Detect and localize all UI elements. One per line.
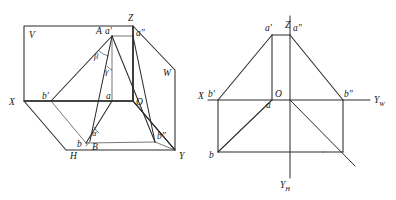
label-plane-V: V	[29, 30, 36, 40]
label-axis-Yh-right: YH	[280, 180, 290, 192]
label-point-a-right: a	[266, 100, 271, 110]
label-axis-Z-left: Z	[128, 13, 134, 23]
label-origin-O-left: O	[136, 97, 143, 107]
label-angle-alpha: α	[92, 128, 97, 138]
projection-figure: V W H X Z Y O A a′ a″ a B b′ b″ b β γ α	[0, 0, 396, 200]
label-axis-Y-left: Y	[179, 151, 186, 161]
line-adoubleprime-bdoubleprime-right	[290, 35, 343, 100]
line-aprime-bprime-right	[218, 35, 272, 100]
label-point-aprime-right: a′	[265, 23, 273, 33]
line-a-b-right	[218, 100, 272, 152]
label-axis-Z-right: Z	[285, 20, 291, 30]
label-point-bdoubleprime-right: b″	[344, 89, 354, 99]
label-point-bdoubleprime-left: b″	[157, 131, 167, 141]
label-point-b-right: b	[209, 150, 214, 160]
label-point-bprime-right: b′	[208, 89, 216, 99]
label-axis-X-right: X	[197, 91, 205, 101]
label-point-B-left: B	[92, 142, 98, 152]
label-axis-Yw-right: YW	[374, 95, 385, 107]
line-aprime-bprime	[51, 36, 112, 101]
right-panel-group: Z X YW YH O a′ a″ a b′ b″ b	[197, 16, 385, 192]
v-plane-outline	[24, 26, 133, 101]
label-origin-O-right: O	[275, 89, 282, 99]
projector-bprime-b	[51, 101, 86, 143]
label-angle-beta: β	[93, 51, 99, 61]
label-point-bprime-left: b′	[42, 91, 50, 101]
label-point-adoubleprime-right: a″	[293, 23, 303, 33]
label-plane-H: H	[69, 151, 78, 161]
w-plane-outline	[133, 26, 175, 150]
figure-root: V W H X Z Y O A a′ a″ a B b′ b″ b β γ α	[0, 0, 396, 200]
label-point-A-left: A	[95, 26, 102, 36]
axis-y-left	[133, 101, 175, 150]
label-point-adoubleprime-left: a″	[136, 28, 146, 38]
label-point-aprime-left: a′	[105, 26, 113, 36]
axis-45-bisector	[290, 100, 355, 166]
label-point-a-left: a	[106, 91, 111, 101]
label-point-b-left: b	[77, 139, 82, 149]
line-a-b-horizontal	[86, 101, 112, 143]
left-panel-group: V W H X Z Y O A a′ a″ a B b′ b″ b β γ α	[8, 13, 186, 161]
label-axis-X-left: X	[8, 97, 16, 107]
line-adoubleprime-bdoubleprime	[133, 36, 155, 142]
label-plane-W: W	[163, 68, 172, 78]
